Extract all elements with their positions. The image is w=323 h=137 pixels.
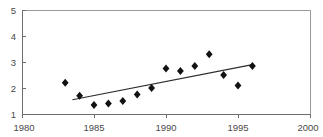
- x-tick-label-1990: 1990: [155, 122, 176, 133]
- data-point: [134, 91, 141, 99]
- data-point: [191, 62, 198, 70]
- data-point: [105, 100, 112, 108]
- data-point: [62, 79, 69, 87]
- y-tick-label-1: 1: [11, 109, 16, 120]
- x-tick-label-1995: 1995: [227, 122, 248, 133]
- scatter-marker-group: [62, 50, 256, 109]
- x-tick-label-2000: 2000: [297, 122, 318, 133]
- data-point: [249, 62, 256, 70]
- data-point: [220, 71, 227, 79]
- data-point: [177, 67, 184, 75]
- scatter-plot: 5 4 3 2 1 1980 1985 1990 1995 2000: [0, 0, 323, 137]
- data-point: [119, 97, 126, 105]
- y-tick-label-3: 3: [11, 57, 16, 68]
- data-point: [235, 81, 242, 89]
- y-tick-label-4: 4: [11, 31, 16, 42]
- y-tick-label-2: 2: [11, 83, 16, 94]
- data-point: [91, 101, 98, 109]
- trend-line: [72, 65, 252, 100]
- chart-figure: cropped title text above plot area 5 4 3…: [0, 0, 323, 137]
- x-tick-label-1980: 1980: [13, 122, 34, 133]
- x-tick-label-1985: 1985: [83, 122, 104, 133]
- plot-frame: [22, 10, 310, 114]
- data-point: [163, 65, 170, 73]
- data-point: [206, 50, 213, 58]
- y-tick-label-5: 5: [11, 5, 16, 16]
